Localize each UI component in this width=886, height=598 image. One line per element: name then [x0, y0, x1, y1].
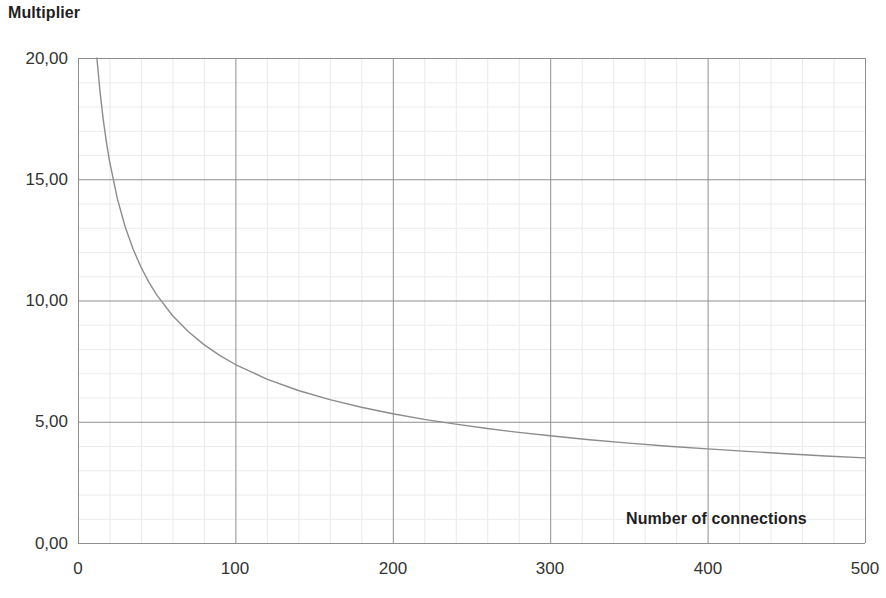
- x-tick-label-500: 500: [825, 560, 886, 577]
- x-axis-title: Number of connections: [626, 510, 807, 528]
- data-series-multiplier: [78, 58, 865, 543]
- x-tick-label-200: 200: [353, 560, 433, 577]
- x-tick-label-0: 0: [38, 560, 118, 577]
- y-axis-tick-labels: 20,00 15,00 10,00 5,00 0,00: [0, 0, 68, 598]
- y-tick-label-0: 0,00: [0, 535, 68, 552]
- y-tick-label-5: 5,00: [0, 413, 68, 430]
- y-tick-label-15: 15,00: [0, 171, 68, 188]
- y-tick-label-20: 20,00: [0, 50, 68, 67]
- y-tick-label-10: 10,00: [0, 292, 68, 309]
- x-tick-label-100: 100: [195, 560, 275, 577]
- series-line-multiplier: [97, 58, 865, 458]
- x-tick-label-300: 300: [510, 560, 590, 577]
- plot-area: [78, 58, 865, 543]
- x-axis-tick-labels: 0 100 200 300 400 500: [0, 560, 886, 590]
- x-tick-label-400: 400: [668, 560, 748, 577]
